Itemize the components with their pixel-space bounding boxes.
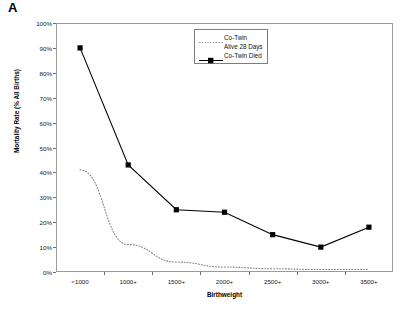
legend-item-co-twin-alive-line2: Alive 28 Days: [198, 42, 263, 51]
y-axis-tick-label: 30%: [40, 194, 52, 201]
x-axis-tick-label: 3500+: [360, 278, 377, 286]
x-axis-tick-marks: [56, 272, 393, 276]
legend-label-co-twin-alive-line2: Alive 28 Days: [224, 42, 263, 51]
data-point-marker: [77, 45, 82, 50]
x-axis-title: Birthweight: [56, 290, 393, 299]
y-axis-tick-label: 60%: [40, 119, 52, 126]
series-2: [77, 45, 371, 249]
data-point-marker: [318, 245, 323, 250]
legend-item-co-twin-died: Co-Twin Died: [198, 51, 263, 60]
series-line-dotted: [80, 170, 369, 270]
x-axis-tick-label: 2500+: [264, 278, 281, 286]
data-point-marker: [126, 162, 131, 167]
series-1: [80, 170, 369, 270]
panel-label: A: [8, 1, 17, 15]
y-axis-tick-label: 20%: [40, 219, 52, 226]
dotted-line-swatch-icon: [198, 33, 224, 42]
x-axis-tick-mark: [104, 272, 105, 275]
x-axis-tick-label: 1500+: [168, 278, 185, 286]
x-axis-tick-label: 2000+: [216, 278, 233, 286]
data-point-marker: [366, 225, 371, 230]
x-axis-tick-label: <1000: [71, 278, 88, 286]
x-axis-tick-labels: <10001000+1500+2000+2500+3000+3500+: [56, 278, 393, 288]
x-axis-tick-mark: [249, 272, 250, 275]
y-axis-tick-label: 0%: [43, 269, 52, 276]
y-axis-tick-label: 10%: [40, 244, 52, 251]
y-axis-tick-label: 90%: [40, 44, 52, 51]
legend-label-co-twin-died: Co-Twin Died: [224, 51, 262, 60]
x-axis-tick-label: 3000+: [312, 278, 329, 286]
chart-legend: Co-Twin Alive 28 Days Co-Twin Died: [194, 29, 268, 64]
legend-label-co-twin-alive-line1: Co-Twin: [224, 33, 247, 42]
data-point-marker: [270, 232, 275, 237]
x-axis-tick-mark: [297, 272, 298, 275]
y-axis-tick-label: 70%: [40, 94, 52, 101]
data-point-marker: [222, 210, 227, 215]
x-axis-tick-mark: [152, 272, 153, 275]
legend-spacer: [198, 42, 224, 51]
y-axis-tick-label: 100%: [36, 20, 52, 27]
chart-figure: A Mortality Rate (% All Births) 0%10%20%…: [0, 0, 411, 314]
y-axis-tick-labels: 0%10%20%30%40%50%60%70%80%90%100%: [18, 23, 52, 272]
solid-line-square-marker-swatch-icon: [198, 51, 224, 60]
y-axis-tick-label: 40%: [40, 169, 52, 176]
y-axis-tick-label: 80%: [40, 69, 52, 76]
legend-item-co-twin-alive: Co-Twin: [198, 33, 263, 42]
x-axis-tick-mark: [200, 272, 201, 275]
data-point-marker: [174, 207, 179, 212]
x-axis-tick-mark: [345, 272, 346, 275]
series-line-solid: [80, 48, 369, 247]
x-axis-tick-label: 1000+: [120, 278, 137, 286]
y-axis-tick-label: 50%: [40, 144, 52, 151]
